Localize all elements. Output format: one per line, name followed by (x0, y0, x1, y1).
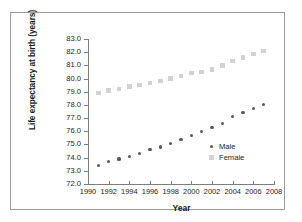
y-tick (84, 65, 88, 66)
y-tick (84, 158, 88, 159)
y-tick (84, 118, 88, 119)
y-tick (84, 52, 88, 53)
legend-item-female: Female (207, 152, 244, 163)
x-tick-label: 2008 (259, 188, 289, 195)
y-tick-label: 81.0 (55, 61, 81, 69)
female-marker-icon (207, 155, 216, 159)
y-axis-title: Life expectancy at birth (years) (27, 5, 37, 135)
plot-area (89, 39, 273, 184)
legend-item-male: Male (207, 141, 244, 152)
y-tick (84, 92, 88, 93)
y-tick-label: 77.0 (55, 114, 81, 122)
y-tick-label: 79.0 (55, 88, 81, 96)
chart-frame: Life expectancy at birth (years) Year 72… (10, 12, 285, 210)
legend-label-male: Male (219, 142, 235, 151)
x-tick (274, 181, 275, 185)
y-tick-label: 75.0 (55, 140, 81, 148)
y-tick (84, 144, 88, 145)
y-tick (84, 39, 88, 40)
y-tick-label: 82.0 (55, 48, 81, 56)
y-tick-label: 72.0 (55, 180, 81, 188)
y-tick-label: 78.0 (55, 101, 81, 109)
legend-label-female: Female (219, 153, 244, 162)
x-axis-title: Year (89, 203, 274, 213)
y-tick-label: 73.0 (55, 167, 81, 175)
y-tick (84, 131, 88, 132)
x-axis-line (88, 184, 274, 185)
y-tick-label: 76.0 (55, 127, 81, 135)
chart-legend: Male Female (207, 141, 244, 163)
y-tick (84, 171, 88, 172)
y-tick (84, 79, 88, 80)
male-marker-icon (207, 145, 216, 148)
y-tick-label: 80.0 (55, 75, 81, 83)
y-tick-label: 74.0 (55, 154, 81, 162)
y-tick-label: 83.0 (55, 35, 81, 43)
y-tick (84, 105, 88, 106)
chart-figure: Life expectancy at birth (years) Year 72… (0, 0, 302, 222)
